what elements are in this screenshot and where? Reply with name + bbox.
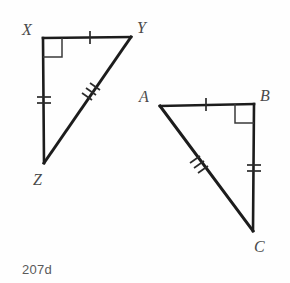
segment-xy bbox=[43, 37, 131, 38]
segment-ab bbox=[160, 104, 254, 106]
triangle-xyz bbox=[37, 31, 131, 163]
vertex-label-c: C bbox=[254, 239, 265, 255]
segment-ac bbox=[160, 106, 253, 231]
triangle-abc bbox=[160, 98, 261, 231]
right-angle-mark-b bbox=[235, 104, 254, 123]
vertex-label-a: A bbox=[139, 89, 149, 105]
segment-yz bbox=[44, 37, 131, 163]
vertex-label-b: B bbox=[260, 88, 270, 104]
vertex-label-y: Y bbox=[137, 20, 146, 36]
vertex-label-x: X bbox=[22, 22, 32, 38]
right-angle-mark-x bbox=[43, 38, 62, 57]
geometry-figure-page: X Y Z A B C 207d bbox=[0, 0, 290, 283]
congruent-triangles-diagram bbox=[0, 0, 290, 283]
figure-caption: 207d bbox=[22, 262, 52, 277]
vertex-label-z: Z bbox=[33, 172, 42, 188]
